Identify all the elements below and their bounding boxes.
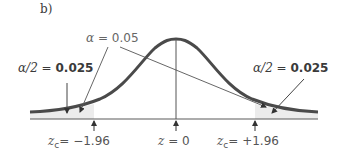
- right-tail-label: α/2 = 0.025: [253, 61, 328, 75]
- alpha-right-arrow-icon: [120, 47, 266, 107]
- alpha-eq: =: [94, 31, 112, 45]
- alpha-value: 0.05: [112, 31, 139, 45]
- panel-label: b): [40, 2, 52, 16]
- right-tail-symbol: α/2: [253, 61, 273, 75]
- left-tail-label: α/2 = 0.025: [18, 61, 93, 75]
- right-tail-eq: =: [273, 61, 291, 75]
- alpha-label: α = 0.05: [86, 31, 139, 45]
- left-tail-eq: =: [38, 61, 56, 75]
- center-label: z = 0: [158, 134, 190, 148]
- center-eq: =: [164, 134, 182, 148]
- center-value: 0: [182, 134, 190, 148]
- left-crit-eq: =: [59, 134, 73, 148]
- left-tail-value: 0.025: [55, 61, 93, 75]
- right-crit-eq: =: [228, 134, 242, 148]
- alpha-symbol: α: [86, 31, 94, 45]
- normal-curve: [30, 39, 318, 112]
- left-crit-label: zc= −1.96: [48, 134, 110, 149]
- right-crit-sub: c: [223, 140, 228, 150]
- left-crit-value: −1.96: [73, 134, 110, 148]
- right-crit-label: zc= +1.96: [217, 134, 279, 149]
- left-crit-sub: c: [54, 140, 59, 150]
- left-tail-symbol: α/2: [18, 61, 38, 75]
- right-tail-value: 0.025: [290, 61, 328, 75]
- right-crit-value: +1.96: [242, 134, 279, 148]
